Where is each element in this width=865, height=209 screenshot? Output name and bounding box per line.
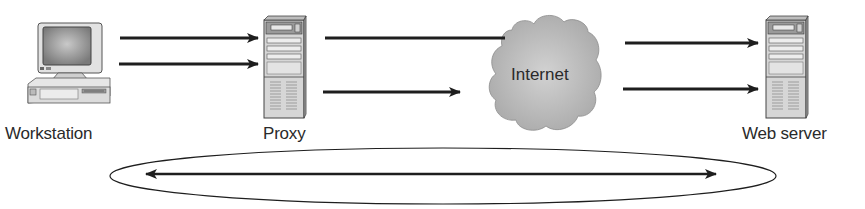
server-tower-icon [766,16,808,118]
server-tower-icon [264,16,306,118]
diagram-svg [0,0,865,209]
end-to-end-ellipse [110,148,776,204]
diagram-canvas: Workstation Proxy Internet Web server [0,0,865,209]
internet-label: Internet [511,65,569,85]
proxy-label: Proxy [263,124,305,144]
web-server-label: Web server [742,124,827,144]
workstation-label: Workstation [5,124,92,144]
desktop-computer-icon [28,23,110,103]
